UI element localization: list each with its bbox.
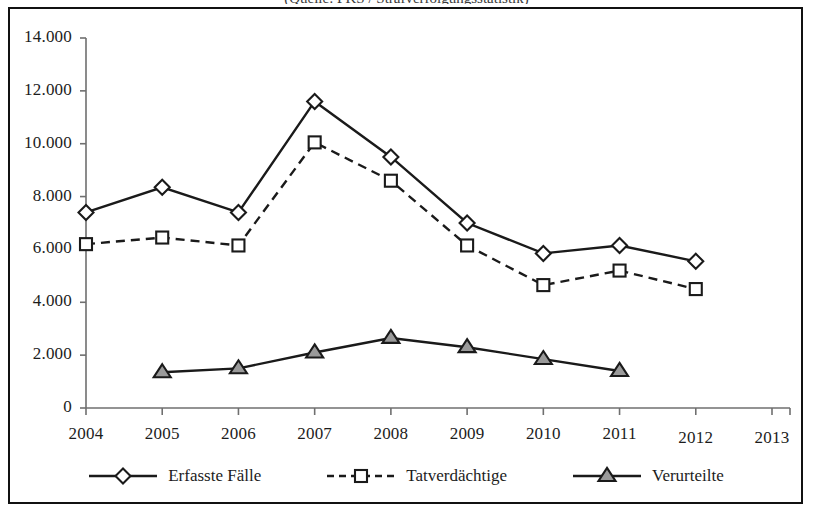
x-axis-tick-label: 2012 <box>656 428 736 448</box>
chart-axes <box>80 38 790 415</box>
legend-item[interactable]: Erfasste Fälle <box>87 465 261 487</box>
y-axis-tick-label: 4.000 <box>8 291 72 311</box>
y-axis-tick-label: 8.000 <box>8 186 72 206</box>
y-axis-tick-label: 14.000 <box>8 27 72 47</box>
y-axis-tick-label: 12.000 <box>8 80 72 100</box>
chart-legend: Erfasste FälleTatverdächtigeVerurteilte <box>8 455 803 497</box>
x-axis-tick-label: 2005 <box>122 424 202 444</box>
y-axis-tick-label: 2.000 <box>8 344 72 364</box>
square-icon <box>325 465 397 487</box>
triangle-icon <box>571 465 643 487</box>
legend-item-label: Erfasste Fälle <box>168 466 261 486</box>
x-axis-tick-label: 2009 <box>427 424 507 444</box>
x-axis-tick-label: 2011 <box>580 424 660 444</box>
y-axis-tick-label: 6.000 <box>8 238 72 258</box>
chart-figure: (Quelle: PKS / Strafverfolgungsstatistik… <box>0 0 813 521</box>
x-axis-tick-label: 2013 <box>732 428 812 448</box>
x-axis-tick-label: 2006 <box>198 424 278 444</box>
legend-item[interactable]: Tatverdächtige <box>325 465 507 487</box>
y-axis-tick-label: 10.000 <box>8 133 72 153</box>
x-axis-tick-label: 2004 <box>46 424 126 444</box>
chart-series <box>79 94 704 377</box>
legend-item-label: Verurteilte <box>652 466 724 486</box>
diamond-icon <box>87 465 159 487</box>
legend-item-label: Tatverdächtige <box>406 466 507 486</box>
x-axis-tick-label: 2007 <box>275 424 355 444</box>
y-axis-tick-label: 0 <box>8 397 72 417</box>
x-axis-tick-label: 2008 <box>351 424 431 444</box>
x-axis-tick-label: 2010 <box>503 424 583 444</box>
legend-item[interactable]: Verurteilte <box>571 465 724 487</box>
